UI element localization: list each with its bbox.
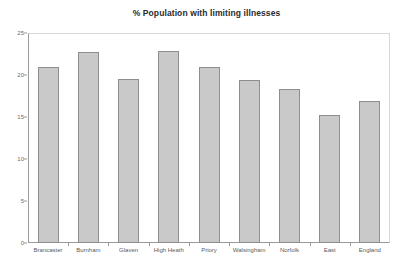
bar (158, 51, 179, 243)
x-axis-tick-label: East (324, 247, 336, 253)
x-axis-tick-mark (269, 243, 270, 246)
y-axis-tick-label: 15 (0, 114, 24, 120)
x-axis-tick-label: High Heath (154, 247, 184, 253)
y-axis-tick-label: 25 (0, 30, 24, 36)
x-axis-tick-label: Glaven (119, 247, 138, 253)
bar (319, 115, 340, 243)
bar-series (28, 33, 390, 243)
y-axis-tick-mark (24, 243, 27, 244)
chart-title: % Population with limiting illnesses (0, 8, 413, 18)
x-axis-tick-label: England (359, 247, 381, 253)
x-axis-tick-mark (350, 243, 351, 246)
x-axis-tick-label: Brancaster (34, 247, 63, 253)
y-axis-tick-mark (24, 33, 27, 34)
x-axis: BrancasterBurnhamGlavenHigh HeathPrioryW… (28, 247, 390, 261)
x-axis-tick-mark (68, 243, 69, 246)
x-axis-tick-mark (149, 243, 150, 246)
bar (199, 67, 220, 243)
y-axis-tick-label: 5 (0, 198, 24, 204)
y-axis-tick-mark (24, 159, 27, 160)
y-axis-tick-label: 20 (0, 72, 24, 78)
x-axis-tick-mark (189, 243, 190, 246)
y-axis-tick-mark (24, 75, 27, 76)
bar (118, 79, 139, 243)
chart-screenshot: % Population with limiting illnesses 051… (0, 0, 413, 278)
bar (279, 89, 300, 243)
x-axis-tick-label: Walsingham (233, 247, 266, 253)
y-axis-tick-mark (24, 117, 27, 118)
bar (38, 67, 59, 243)
x-axis-tick-label: Burnham (76, 247, 100, 253)
x-axis-tick-mark (229, 243, 230, 246)
bar (359, 101, 380, 243)
y-axis-tick-label: 10 (0, 156, 24, 162)
x-axis-tick-mark (310, 243, 311, 246)
y-axis-tick-label: 0 (0, 240, 24, 246)
y-axis-tick-mark (24, 201, 27, 202)
x-axis-tick-label: Priory (201, 247, 217, 253)
bar (239, 80, 260, 243)
x-axis-tick-label: Norfolk (280, 247, 299, 253)
bar (78, 52, 99, 243)
y-axis: 0510152025 (0, 33, 24, 243)
x-axis-tick-mark (108, 243, 109, 246)
